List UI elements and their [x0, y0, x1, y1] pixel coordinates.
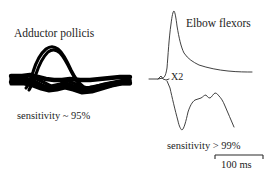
right-panel-title: Elbow flexors [186, 18, 251, 30]
left-panel-traces [11, 47, 130, 93]
elbow-lower-trace [167, 81, 234, 130]
right-panel-sensitivity: sensitivity > 99% [167, 141, 241, 152]
scale-bar-label: 100 ms [221, 160, 252, 171]
left-panel-title: Adductor pollicis [14, 28, 94, 40]
left-panel-sensitivity: sensitivity ~ 95% [17, 111, 90, 122]
amplification-marker-label: X2 [171, 72, 183, 82]
emg-figure: Adductor pollicis Elbow flexors sensitiv… [0, 0, 268, 174]
